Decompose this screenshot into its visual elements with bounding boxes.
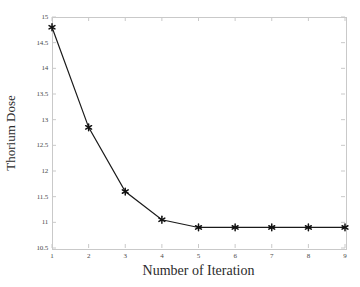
tick-marks xyxy=(52,17,345,248)
data-line xyxy=(52,27,345,227)
data-point-marker xyxy=(86,124,92,131)
chart-canvas xyxy=(0,0,360,287)
x-tick-label: 7 xyxy=(270,252,274,260)
x-tick-label: 6 xyxy=(233,252,237,260)
data-point-marker xyxy=(122,188,128,195)
x-tick-label: 1 xyxy=(50,252,54,260)
x-axis-title: Number of Iteration xyxy=(52,263,345,279)
x-tick-label: 5 xyxy=(197,252,201,260)
x-tick-label: 4 xyxy=(160,252,164,260)
y-axis-title-wrapper: Thorium Dose xyxy=(2,17,20,248)
x-tick-label: 3 xyxy=(124,252,128,260)
x-tick-label: 9 xyxy=(343,252,347,260)
chart-figure: 10.51111.51212.51313.51414.515 123456789… xyxy=(0,0,360,287)
x-tick-label: 8 xyxy=(307,252,311,260)
y-axis-title: Thorium Dose xyxy=(3,95,19,170)
data-point-marker xyxy=(49,24,55,31)
x-tick-label: 2 xyxy=(87,252,91,260)
data-markers xyxy=(49,24,348,231)
